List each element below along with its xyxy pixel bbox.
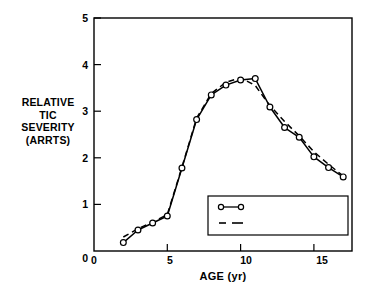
plot-area [0, 0, 368, 298]
data-point [120, 240, 126, 246]
data-point [267, 104, 273, 110]
data-point [252, 76, 258, 82]
data-point [194, 117, 200, 123]
y-axis-ticks [94, 18, 101, 204]
chart-figure: RELATIVE TIC SEVERITY (ARRTS) AGE (yr) 5… [0, 0, 368, 298]
data-point [311, 154, 317, 160]
data-point [208, 92, 214, 98]
x-axis-ticks [167, 244, 314, 251]
data-point [135, 227, 141, 233]
data-point [238, 77, 244, 83]
data-point [340, 174, 346, 180]
data-point [150, 220, 156, 226]
legend-box [208, 196, 348, 235]
data-point [179, 165, 185, 171]
data-point [164, 213, 170, 219]
data-point [282, 125, 288, 131]
data-point [326, 165, 332, 171]
data-point [223, 82, 229, 88]
data-point [296, 134, 302, 140]
